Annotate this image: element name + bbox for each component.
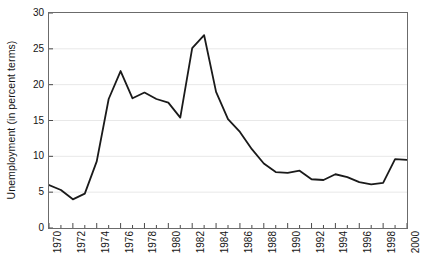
x-tick-label: 1984 — [220, 231, 230, 253]
data-series-line — [49, 35, 407, 199]
x-axis-tick-marks — [49, 223, 407, 228]
y-tick-label: 20 — [24, 80, 44, 90]
y-tick-label: 15 — [24, 116, 44, 126]
x-tick-label: 1992 — [316, 231, 326, 253]
plot-svg — [49, 13, 407, 228]
x-tick-label: 1970 — [53, 231, 63, 253]
x-tick-label: 1994 — [339, 231, 349, 253]
y-tick-label: 30 — [24, 8, 44, 18]
x-tick-label: 1986 — [244, 231, 254, 253]
plot-area — [48, 12, 408, 229]
y-tick-label: 5 — [24, 187, 44, 197]
gridlines — [49, 49, 407, 192]
y-axis-title: Unemployment (in percent terms) — [0, 0, 22, 240]
x-tick-label: 1980 — [172, 231, 182, 253]
x-tick-label: 1998 — [387, 231, 397, 253]
x-tick-label: 1988 — [268, 231, 278, 253]
unemployment-line-chart: Unemployment (in percent terms) 05101520… — [0, 0, 424, 275]
y-axis-tick-labels: 051015202530 — [22, 0, 44, 275]
x-tick-label: 1972 — [77, 231, 87, 253]
y-axis-tick-marks — [49, 13, 53, 228]
x-tick-label: 2000 — [411, 231, 421, 253]
x-tick-label: 1982 — [196, 231, 206, 253]
y-tick-label: 10 — [24, 151, 44, 161]
y-axis-title-label: Unemployment (in percent terms) — [5, 41, 17, 200]
x-tick-label: 1996 — [363, 231, 373, 253]
y-tick-label: 0 — [24, 223, 44, 233]
x-axis-tick-labels: 1970197219741976197819801982198419861988… — [48, 231, 408, 275]
y-tick-label: 25 — [24, 44, 44, 54]
x-tick-label: 1990 — [292, 231, 302, 253]
x-tick-label: 1974 — [101, 231, 111, 253]
x-tick-label: 1976 — [125, 231, 135, 253]
x-tick-label: 1978 — [148, 231, 158, 253]
